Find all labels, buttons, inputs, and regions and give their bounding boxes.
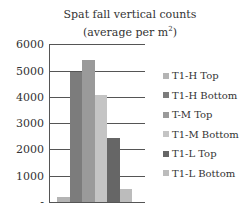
chart-title: Spat fall vertical counts (average per m… — [60, 8, 200, 40]
legend-item: T1-H Bottom — [163, 86, 239, 106]
legend-item: T1-H Top — [163, 66, 239, 86]
y-tick-label: 1000 — [14, 169, 44, 182]
legend-swatch-icon — [163, 92, 169, 98]
legend-label: T-M Top — [172, 109, 213, 120]
legend-item: T1-L Top — [163, 144, 239, 164]
legend-item: T-M Top — [163, 105, 239, 125]
legend-item: T1-L Bottom — [163, 164, 239, 184]
legend-swatch-icon — [163, 131, 169, 137]
y-tick-label: 4000 — [14, 90, 44, 103]
gridline — [49, 71, 145, 72]
gridline — [49, 202, 145, 203]
legend-label: T1-M Bottom — [172, 129, 239, 140]
legend-swatch-icon — [163, 73, 169, 79]
legend-label: T1-H Bottom — [172, 90, 237, 101]
legend-label: T1-L Top — [172, 148, 217, 159]
legend-swatch-icon — [163, 112, 169, 118]
bar-t1-l-bottom — [120, 189, 133, 202]
chart-title-line1: Spat fall vertical counts — [60, 8, 200, 22]
y-tick-label: 6000 — [14, 38, 44, 51]
bar-t-m-top — [82, 60, 95, 202]
legend-label: T1-L Bottom — [172, 168, 235, 179]
legend-swatch-icon — [163, 170, 169, 176]
chart-subtitle: (average per m2) — [60, 22, 200, 40]
y-tick-label: 5000 — [14, 64, 44, 77]
legend-item: T1-M Bottom — [163, 125, 239, 145]
y-tick-label: 2000 — [14, 143, 44, 156]
legend-label: T1-H Top — [172, 70, 219, 81]
y-tick-label: - — [14, 196, 44, 209]
legend: T1-H TopT1-H BottomT-M TopT1-M BottomT1-… — [163, 66, 239, 183]
gridline — [49, 44, 145, 45]
bar-t1-h-bottom — [70, 72, 83, 202]
bar-t1-h-top — [57, 197, 70, 202]
legend-swatch-icon — [163, 151, 169, 157]
bar-t1-l-top — [107, 138, 120, 202]
bar-t1-m-bottom — [95, 95, 108, 202]
y-tick-label: 3000 — [14, 117, 44, 130]
